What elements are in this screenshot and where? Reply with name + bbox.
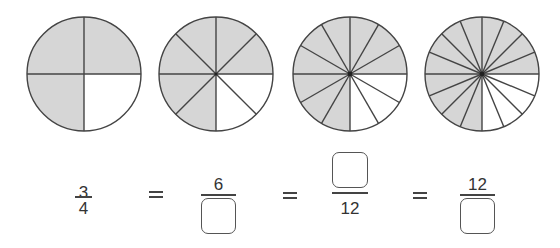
shaded-slice: [84, 17, 141, 74]
circle-sixteenths: [425, 17, 539, 131]
unshaded-slice: [84, 74, 141, 131]
fraction-4-denominator-answer-box[interactable]: [460, 198, 495, 234]
fraction-2-bar: [201, 194, 236, 196]
fraction-circles: [0, 0, 560, 140]
fraction-3-denominator: 12: [332, 200, 368, 217]
center-dot: [214, 72, 217, 75]
fraction-4-numerator: 12: [460, 176, 495, 193]
fraction-1-denominator: 4: [75, 200, 92, 217]
center-dot: [348, 72, 353, 77]
fraction-blank-over-twelve: 12: [332, 152, 368, 218]
shaded-slice: [27, 17, 84, 74]
fraction-six-over-blank: 6: [201, 176, 236, 238]
equals-sign-1: [149, 191, 163, 198]
circle-quarters: [27, 17, 141, 131]
fraction-1-bar: [75, 196, 92, 198]
circle-twelfths: [293, 17, 407, 131]
center-dot: [480, 72, 485, 77]
shaded-slice: [27, 74, 84, 131]
equals-sign-2: [283, 192, 297, 199]
circle-eighths: [159, 17, 273, 131]
fraction-twelve-over-blank: 12: [460, 176, 495, 238]
equals-sign-3: [413, 192, 427, 199]
fraction-2-numerator: 6: [201, 176, 236, 193]
fraction-4-bar: [460, 194, 495, 196]
fraction-2-denominator-answer-box[interactable]: [201, 198, 236, 234]
fraction-3-numerator-answer-box[interactable]: [332, 152, 368, 188]
fraction-three-quarters: 3 4: [75, 178, 92, 218]
fraction-3-bar: [332, 192, 368, 194]
